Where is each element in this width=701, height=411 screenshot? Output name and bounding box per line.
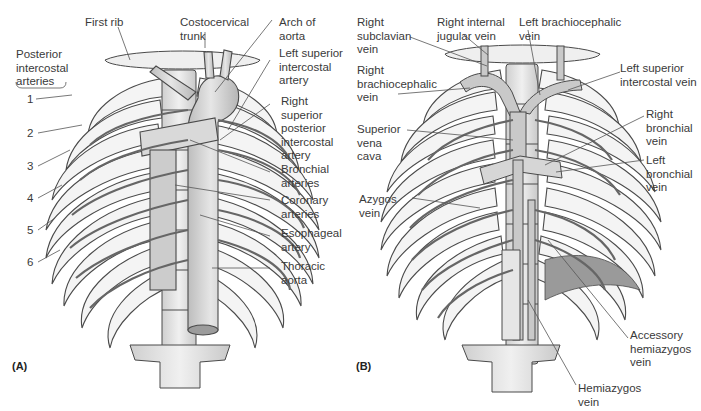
label-left-superior-intercostal-vein: Left superior intercostal vein bbox=[620, 62, 697, 89]
panel-b-letter: (B) bbox=[356, 360, 371, 372]
rib-number-5: 5 bbox=[27, 224, 33, 238]
panel-b-first-rib bbox=[445, 45, 600, 63]
label-posterior-intercostal-arteries: Posterior intercostal arteries bbox=[16, 48, 68, 89]
illustration-layer bbox=[0, 0, 701, 411]
label-right-bronchial-vein: Right bronchial vein bbox=[646, 108, 693, 149]
label-right-superior-posterior-intercostal-artery: Right superior posterior intercostal art… bbox=[281, 95, 333, 163]
label-left-brachiocephalic-vein: Left brachiocephalic vein bbox=[519, 16, 621, 43]
label-coronary-arteries: Coronary arteries bbox=[281, 194, 328, 221]
rib-number-4: 4 bbox=[27, 192, 33, 206]
label-costocervical-trunk: Costocervical trunk bbox=[180, 16, 249, 43]
label-right-brachiocephalic-vein: Right brachiocephalic vein bbox=[357, 64, 437, 105]
rib-number-1: 1 bbox=[27, 93, 33, 107]
panel-a-letter: (A) bbox=[12, 360, 27, 372]
rib-number-2: 2 bbox=[27, 127, 33, 141]
thoracic-vessels-figure: First rib Costocervical trunk Arch of ao… bbox=[0, 0, 701, 411]
label-right-internal-jugular-vein: Right internal jugular vein bbox=[437, 16, 505, 43]
label-right-subclavian-vein: Right subclavian vein bbox=[357, 16, 411, 57]
label-first-rib: First rib bbox=[85, 16, 123, 30]
panel-a-first-rib bbox=[105, 51, 260, 69]
label-left-bronchial-vein: Left bronchial vein bbox=[646, 154, 693, 195]
label-esophageal-artery: Esophageal artery bbox=[281, 227, 342, 254]
label-azygos-vein: Azygos vein bbox=[359, 193, 397, 220]
rib-number-3: 3 bbox=[27, 160, 33, 174]
rib-number-6: 6 bbox=[27, 256, 33, 270]
label-arch-of-aorta: Arch of aorta bbox=[279, 16, 315, 43]
label-hemiazygos-vein: Hemiazygos vein bbox=[578, 382, 641, 409]
label-left-superior-intercostal-artery: Left superior intercostal artery bbox=[279, 47, 343, 88]
label-superior-vena-cava: Superior vena cava bbox=[357, 123, 400, 164]
label-accessory-hemiazygos-vein: Accessory hemiazygos vein bbox=[630, 329, 691, 370]
label-thoracic-aorta: Thoracic aorta bbox=[281, 260, 325, 287]
label-bronchial-arteries: Bronchial arteries bbox=[281, 163, 329, 190]
